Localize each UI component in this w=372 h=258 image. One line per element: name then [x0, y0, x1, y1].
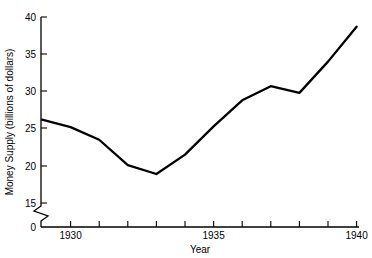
- y-tick-label-0: 0: [30, 222, 36, 233]
- x-tick-label-1930: 1930: [59, 230, 82, 241]
- x-tick-label-1940: 1940: [345, 230, 368, 241]
- y-tick-label-40: 40: [25, 12, 37, 23]
- x-axis-title: Year: [190, 244, 211, 255]
- y-tick-label-20: 20: [25, 161, 37, 172]
- y-tick-label-25: 25: [25, 123, 37, 134]
- y-tick-label-35: 35: [25, 49, 37, 60]
- y-tick-label-30: 30: [25, 86, 37, 97]
- money-supply-line-chart: 40 35 30 25 20 15 0 1930 1935 1940 Year …: [0, 0, 372, 258]
- y-axis-title: Money Supply (billions of dollars): [4, 49, 15, 196]
- y-tick-label-15: 15: [25, 198, 37, 209]
- y-axis-break-icon: [34, 203, 48, 227]
- chart-canvas: 40 35 30 25 20 15 0 1930 1935 1940 Year …: [0, 0, 372, 258]
- x-tick-label-1935: 1935: [202, 230, 225, 241]
- money-supply-series-line: [42, 27, 357, 174]
